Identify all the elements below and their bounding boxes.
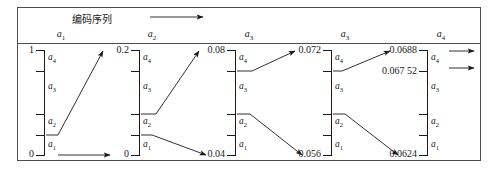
scale-5-segment-a3: a3 [431,81,439,93]
scale-tick [36,71,45,72]
scale-2-bottom-value: 0 [124,148,129,159]
scale-5-bottom-value: 0.0624 [390,148,418,159]
scale-tick [419,155,428,156]
scale-tick [419,50,428,51]
scale-3-segment-a4: a4 [239,52,247,64]
scale-4-bottom-value: 0.056 [299,148,322,159]
scale-spine [44,50,45,156]
scale-bracket-5 [419,50,428,156]
scale-tick [131,71,140,72]
scale-5-top-value: 0.0688 [390,44,418,55]
scale-2-segment-a2: a2 [143,116,151,128]
scale-4-segment-a2: a2 [335,116,343,128]
scale-1-segment-a1: a1 [48,139,56,151]
scale-3-segment-a2: a2 [239,116,247,128]
column-header-3: a3 [245,28,254,42]
scale-spine [427,50,428,156]
column-header-2: a2 [148,28,157,42]
scale-tick [36,135,45,136]
scale-5-segment-a2: a2 [431,116,439,128]
scale-tick [227,50,236,51]
column-header-5: a4 [437,28,446,42]
scale-bracket-4 [323,50,332,156]
scale-3-top-value: 0.08 [208,44,226,55]
scale-tick [131,155,140,156]
scale-tick [227,71,236,72]
figure-title: 编码序列 [72,11,112,26]
scale-tick [227,135,236,136]
column-header-4: a3 [341,28,350,42]
scale-1-segment-a3: a3 [48,81,56,93]
scale-tick [323,155,332,156]
scale-3-segment-a3: a3 [239,81,247,93]
scale-4-top-value: 0.072 [299,44,322,55]
scale-tick [227,155,236,156]
scale-tick [36,50,45,51]
scale-3-segment-a1: a1 [239,139,247,151]
scale-tick [36,114,45,115]
scale-tick [227,114,236,115]
scale-spine [139,50,140,156]
scale-tick [323,50,332,51]
scale-tick [131,135,140,136]
scale-5-mid-value: 0.067 52 [382,65,417,76]
scale-tick [419,114,428,115]
scale-5-segment-a4: a4 [431,52,439,64]
scale-tick [323,114,332,115]
column-header-1: a1 [57,28,66,42]
scale-spine [235,50,236,156]
scale-4-segment-a1: a1 [335,139,343,151]
scale-2-segment-a1: a1 [143,139,151,151]
arithmetic-coding-figure: 编码序列 a1 a2 a3 a3 a4 1 0 a4 a3 a2 a1 0.2 … [0,0,499,174]
scale-tick [131,50,140,51]
scale-tick [419,71,428,72]
scale-1-segment-a4: a4 [48,52,56,64]
scale-bracket-1 [36,50,45,156]
scale-3-bottom-value: 0.04 [208,148,226,159]
scale-tick [131,114,140,115]
scale-spine [331,50,332,156]
scale-1-segment-a2: a2 [48,116,56,128]
scale-bracket-3 [227,50,236,156]
scale-4-segment-a3: a3 [335,81,343,93]
scale-5-segment-a1: a1 [431,139,439,151]
scale-tick [323,71,332,72]
scale-4-segment-a4: a4 [335,52,343,64]
scale-tick [36,155,45,156]
scale-tick [419,135,428,136]
scale-bracket-2 [131,50,140,156]
scale-2-segment-a3: a3 [143,81,151,93]
scale-1-bottom-value: 0 [29,148,34,159]
scale-tick [323,135,332,136]
scale-2-segment-a4: a4 [143,52,151,64]
scale-1-top-value: 1 [29,44,34,55]
scale-2-top-value: 0.2 [117,44,130,55]
